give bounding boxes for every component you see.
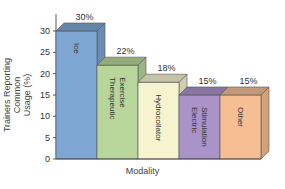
bar [179, 95, 220, 159]
plot-area: 05101520253030%Ice22%TherapeuticExercise… [0, 0, 285, 189]
bar-chart: 05101520253030%Ice22%TherapeuticExercise… [0, 0, 285, 189]
y-tick-label: 30 [40, 26, 50, 36]
y-tick-label: 25 [40, 47, 50, 57]
x-axis-label: Modality [0, 166, 285, 176]
y-tick-label: 15 [40, 90, 50, 100]
y-tick-label: 20 [40, 69, 50, 79]
category-label: Hydrocollator [154, 94, 163, 141]
bar-side [261, 87, 269, 159]
y-axis-label-line-2: Usage (%) [22, 40, 32, 150]
bar-top [97, 57, 146, 65]
bar-top [220, 87, 269, 95]
category-label-line: Hydrocollator [154, 94, 163, 141]
y-axis-label: Trainers Reporting Common Usage (%) [2, 40, 32, 150]
y-tick-label: 5 [45, 133, 50, 143]
category-label-line: Electric [190, 107, 199, 133]
category-label-line: Ice [72, 43, 81, 54]
y-tick-label: 0 [45, 154, 50, 164]
category-label: Other [236, 107, 245, 127]
category-label-line: Stimulation [200, 107, 209, 147]
data-label: 18% [157, 63, 175, 73]
category-label-line: Therapeutic [108, 77, 117, 119]
bar-top [179, 87, 228, 95]
category-label: Ice [72, 43, 81, 54]
y-axis-label-line-1: Trainers Reporting Common [2, 40, 22, 150]
data-label: 22% [116, 46, 134, 56]
category-label-line: Exercise [118, 77, 127, 108]
y-tick-label: 10 [40, 111, 50, 121]
category-label-line: Other [236, 107, 245, 127]
bar [97, 65, 138, 159]
data-label: 30% [75, 12, 93, 22]
data-label: 15% [198, 76, 216, 86]
data-label: 15% [239, 76, 257, 86]
bar-top [138, 74, 187, 82]
bar-top [56, 23, 105, 31]
